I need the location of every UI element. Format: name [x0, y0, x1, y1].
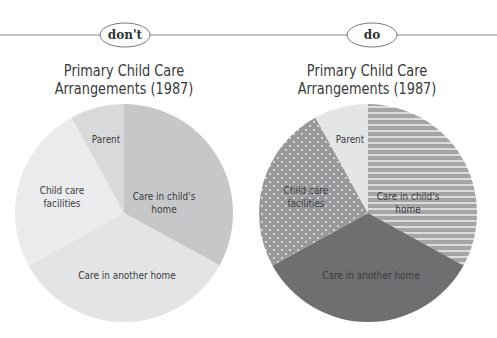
do-tag: do: [347, 23, 397, 47]
slice-label: Care in another home: [78, 269, 175, 281]
dont-tag: don't: [100, 23, 150, 47]
slice-label: Care in child's: [377, 191, 440, 203]
do-chart-title: Primary Child Care Arrangements (1987): [298, 62, 437, 97]
dont-tag-label: don't: [108, 28, 143, 42]
title-line-1: Primary Child Care: [64, 62, 184, 79]
title-line-2: Arrangements (1987): [55, 80, 194, 97]
slice-label: home: [151, 204, 176, 216]
dont-chart-title: Primary Child Care Arrangements (1987): [55, 62, 194, 97]
comparison-figure: don't do Primary Child Care Arrangements…: [0, 0, 497, 338]
slice-label: Care in another home: [322, 269, 419, 281]
slice-label: Child care: [40, 185, 85, 197]
do-tag-label: do: [364, 28, 380, 42]
slice-label: home: [395, 204, 420, 216]
slice-label: Care in child's: [133, 191, 196, 203]
slice-label: facilities: [43, 198, 80, 210]
dont-pie-chart: Care in child'shomeCare in another homeC…: [15, 104, 233, 322]
do-pie-chart: Care in child'shomeCare in another homeC…: [259, 104, 477, 322]
slice-label: Parent: [92, 133, 121, 145]
slice-label: facilities: [287, 198, 324, 210]
slice-label: Parent: [336, 133, 365, 145]
slice-label: Child care: [284, 185, 329, 197]
title-line-1: Primary Child Care: [307, 62, 427, 79]
title-line-2: Arrangements (1987): [298, 80, 437, 97]
